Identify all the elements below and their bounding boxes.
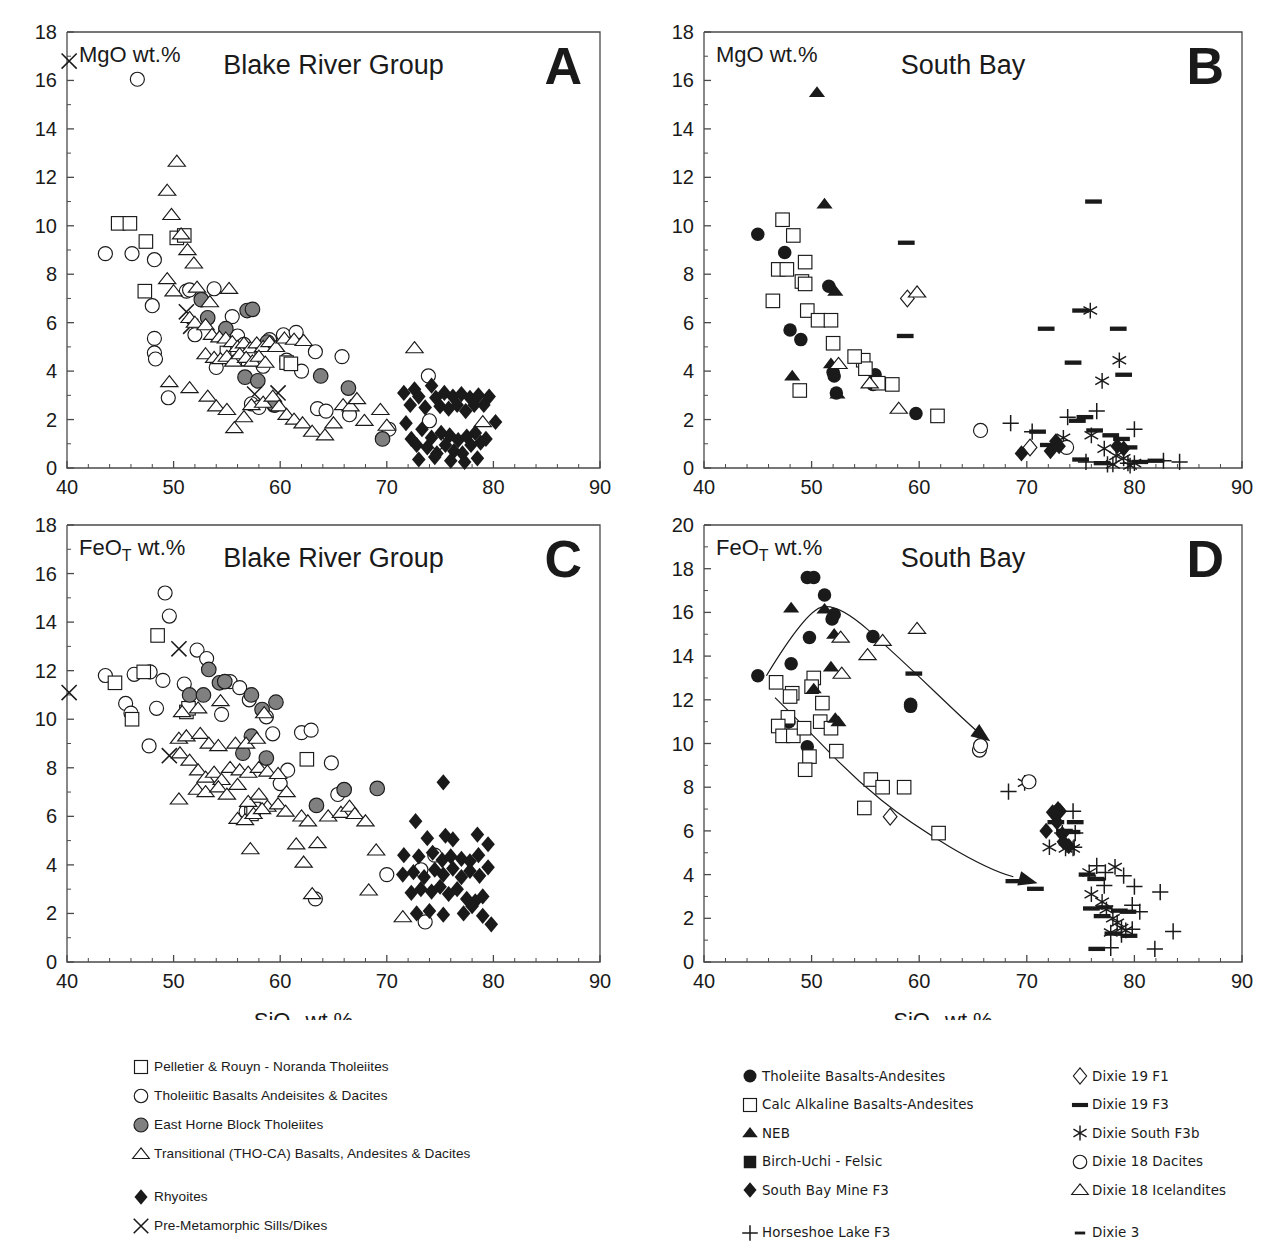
- marker-open-triangle: [295, 856, 312, 867]
- marker-open-square: [151, 629, 165, 643]
- marker-filled-square: [744, 1156, 756, 1168]
- legend-item[interactable]: Dixie 19 F1: [1068, 1062, 1226, 1091]
- x-tick-label: 50: [162, 970, 184, 992]
- marker-filled-diamond: [397, 385, 411, 401]
- svg-text:MgO wt.%: MgO wt.%: [79, 42, 180, 67]
- legend-item[interactable]: East Horne Block Tholeiites: [128, 1110, 471, 1139]
- marker-open-triangle: [159, 273, 176, 284]
- marker-open-diamond: [1073, 1068, 1086, 1084]
- marker-dash-thick: [1038, 327, 1055, 331]
- marker-dash-thick: [905, 671, 922, 675]
- marker-plus: [1147, 941, 1163, 957]
- legend-item[interactable]: Dixie South F3b: [1068, 1119, 1226, 1148]
- panel-title: South Bay: [901, 543, 1026, 573]
- marker-dash-thick: [898, 241, 915, 245]
- y-tick-label: 18: [672, 558, 694, 580]
- marker-open-triangle: [250, 788, 267, 799]
- marker-open-triangle: [133, 1147, 150, 1158]
- marker-plus: [1116, 868, 1132, 884]
- legend-marker-dash-thin: [1068, 1223, 1092, 1243]
- marker-gray-circle: [217, 674, 232, 689]
- marker-dash-thick: [1065, 360, 1082, 364]
- legend-item[interactable]: Calc Alkaline Basalts-Andesites: [738, 1091, 1068, 1120]
- legend-label: Calc Alkaline Basalts-Andesites: [762, 1097, 974, 1112]
- legend-item[interactable]: Tholeiite Basalts-Andesites: [738, 1062, 1068, 1091]
- y-tick-label: 0: [46, 951, 57, 973]
- marker-open-circle: [215, 707, 229, 721]
- x-tick-label: 90: [589, 476, 611, 498]
- y-tick-label: 14: [672, 118, 694, 140]
- series-open-square: [766, 213, 944, 423]
- marker-plus: [1024, 424, 1040, 440]
- panel-letter: A: [544, 37, 582, 95]
- panel-title: Blake River Group: [223, 543, 444, 573]
- marker-plus: [1132, 904, 1148, 920]
- marker-open-triangle: [185, 257, 202, 268]
- legend-item[interactable]: Pre-Metamorphic Sills/Dikes: [128, 1211, 471, 1240]
- x-tick-label: 40: [56, 476, 78, 498]
- legend-item[interactable]: Tholeiitic Basalts Andeisites & Dacites: [128, 1081, 471, 1110]
- legend-item[interactable]: NEB: [738, 1119, 1068, 1148]
- marker-cross-x: [134, 1218, 149, 1233]
- marker-open-square: [858, 801, 872, 815]
- y-tick-label: 4: [46, 854, 57, 876]
- legend-item[interactable]: Rhyoites: [128, 1182, 471, 1211]
- panel-title: South Bay: [901, 50, 1026, 80]
- legend-item[interactable]: Dixie 18 Icelandites: [1068, 1176, 1226, 1205]
- legend-item[interactable]: South Bay Mine F3: [738, 1176, 1068, 1205]
- marker-open-square: [848, 350, 862, 364]
- y-axis-label: FeOT wt.%: [716, 535, 822, 564]
- marker-open-square: [830, 744, 844, 758]
- legend-marker-filled-diamond: [738, 1180, 762, 1200]
- marker-gray-circle: [370, 781, 385, 796]
- marker-gray-circle: [375, 432, 390, 447]
- data-points: [751, 86, 1188, 473]
- legend-item[interactable]: Dixie 3: [1068, 1219, 1226, 1248]
- svg-text:MgO wt.%: MgO wt.%: [716, 42, 817, 67]
- y-axis-label: FeOT wt.%: [79, 535, 185, 564]
- marker-open-triangle: [181, 382, 198, 393]
- x-tick-label: 40: [56, 970, 78, 992]
- legend-item[interactable]: Transitional (THO-CA) Basalts, Andesites…: [128, 1139, 471, 1168]
- x-axis-label: SiO2 wt.%: [254, 1008, 353, 1020]
- axis-ticks: 40506070809002468101214161820: [672, 514, 1253, 992]
- legend-item[interactable]: Dixie 19 F3: [1068, 1091, 1226, 1120]
- marker-open-triangle: [908, 286, 925, 297]
- marker-open-circle: [142, 739, 156, 753]
- panel-c: 405060708090024681012141618FeOT wt.%Blak…: [0, 500, 642, 1020]
- axis-ticks: 405060708090024681012141618: [35, 21, 611, 498]
- y-tick-label: 10: [672, 215, 694, 237]
- legend-marker-plus: [738, 1223, 762, 1243]
- series-dash-thick: [897, 199, 1164, 465]
- legend-marker-filled-square: [738, 1152, 762, 1172]
- marker-open-square: [886, 378, 900, 392]
- x-tick-label: 70: [376, 476, 398, 498]
- series-filled-diamond: [1039, 801, 1075, 854]
- marker-dash-thick: [1027, 887, 1044, 891]
- marker-open-square: [135, 1060, 148, 1073]
- legend-marker-open-triangle: [1068, 1180, 1092, 1200]
- legend-marker-open-circle: [1068, 1152, 1092, 1172]
- y-tick-label: 16: [35, 563, 57, 585]
- marker-open-square: [744, 1098, 757, 1111]
- legend-item[interactable]: Dixie 18 Dacites: [1068, 1148, 1226, 1177]
- legend-item[interactable]: Horseshoe Lake F3: [738, 1219, 1068, 1248]
- marker-gray-circle: [244, 688, 259, 703]
- marker-open-triangle: [229, 778, 246, 789]
- legend-item[interactable]: Birch-Uchi - Felsic: [738, 1148, 1068, 1177]
- legend-item[interactable]: Pelletier & Rouyn - Noranda Tholeiites: [128, 1052, 471, 1081]
- legend-marker-open-square: [738, 1095, 762, 1115]
- series-open-triangle: [170, 695, 411, 922]
- svg-text:SiO2 wt.%: SiO2 wt.%: [893, 1008, 992, 1020]
- marker-open-square: [787, 229, 801, 243]
- marker-open-triangle: [226, 422, 243, 433]
- y-tick-label: 0: [46, 457, 57, 479]
- y-axis-label: MgO wt.%: [716, 42, 817, 67]
- axis-ticks: 405060708090024681012141618: [35, 514, 611, 992]
- marker-filled-triangle: [742, 1127, 758, 1137]
- marker-plus: [1065, 803, 1081, 819]
- marker-dash-thick: [1088, 947, 1105, 951]
- y-tick-label: 18: [35, 514, 57, 536]
- marker-open-square: [766, 294, 780, 308]
- y-tick-label: 0: [683, 457, 694, 479]
